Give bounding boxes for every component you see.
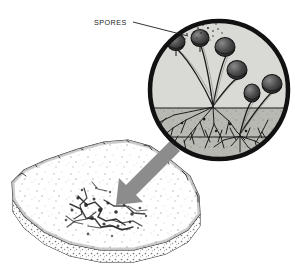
spores-callout: SPORES [94, 18, 188, 36]
sporangium-6 [262, 75, 282, 94]
mold-illustration-figure: SPORES [0, 0, 295, 269]
spores-leader-line [133, 22, 188, 36]
sporangium-5 [244, 84, 260, 102]
sporangium-4 [227, 61, 247, 80]
sporangium-3 [215, 38, 235, 57]
spores-label: SPORES [94, 18, 127, 27]
bread-slice [10, 138, 204, 262]
